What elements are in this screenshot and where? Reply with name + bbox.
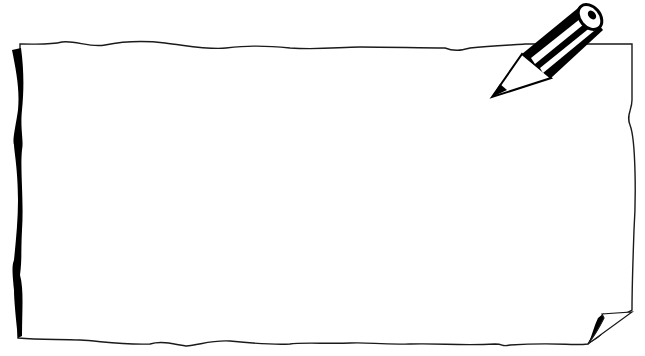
paper-illustration xyxy=(0,0,645,356)
paper-left-edge-shadow xyxy=(12,48,23,338)
paper-sheet xyxy=(18,42,635,346)
